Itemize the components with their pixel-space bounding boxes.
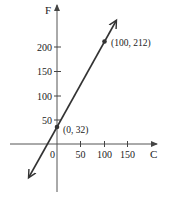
y-tick-label: 200	[37, 42, 52, 53]
x-tick-label: 0	[50, 149, 55, 160]
data-point	[102, 39, 107, 44]
y-tick-label: 100	[37, 91, 52, 102]
x-tick-label: 150	[120, 149, 135, 160]
y-axis-label: F	[45, 4, 51, 16]
y-tick-label: 50	[42, 115, 52, 126]
data-point	[55, 125, 60, 130]
data-line	[57, 21, 116, 127]
point-label: (100, 212)	[111, 38, 151, 49]
x-tick-label: 50	[76, 149, 86, 160]
y-tick-label: 150	[37, 66, 52, 77]
point-label: (0, 32)	[63, 125, 88, 136]
chart: 0 50 100 150 200 150 100 50 C F (0, 32) …	[0, 0, 171, 205]
x-axis-label: C	[150, 148, 157, 160]
x-tick-label: 100	[97, 149, 112, 160]
